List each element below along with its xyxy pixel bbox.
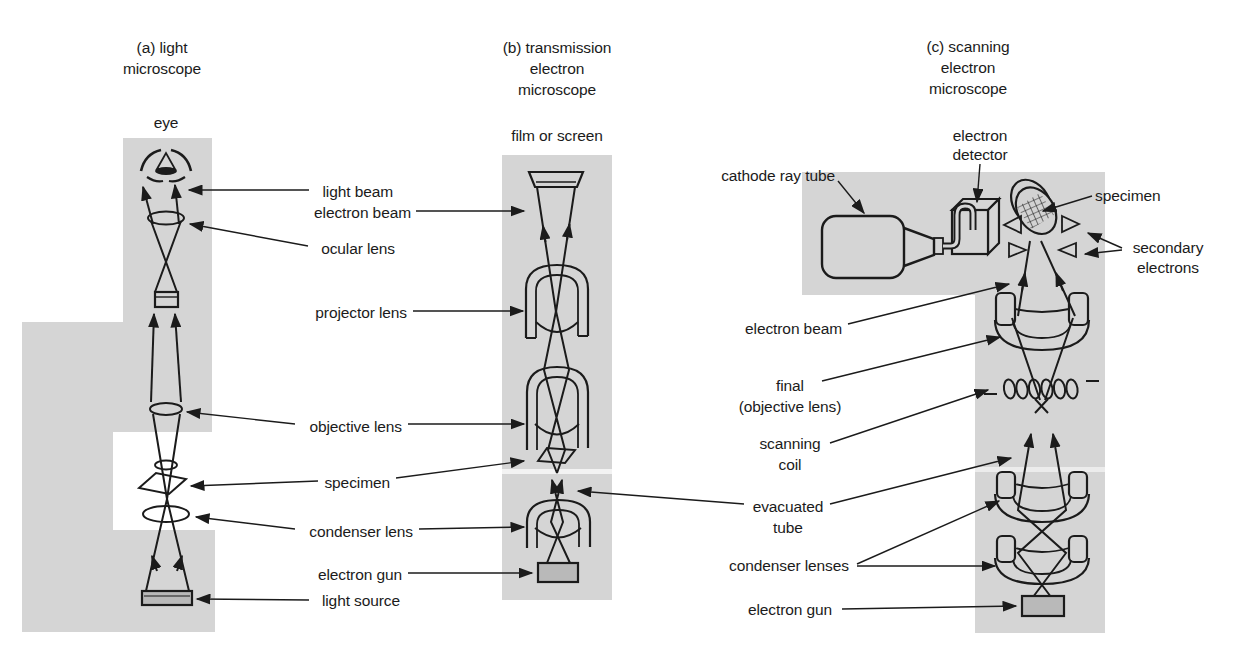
eye-label: eye	[126, 113, 206, 133]
condenser-lenses-label: condenser lenses	[714, 556, 864, 576]
light-source-shape	[142, 591, 192, 605]
specimen-label: specimen	[260, 473, 390, 493]
light-microscope-panel	[22, 138, 215, 632]
sem-electron-gun-label: electron gun	[715, 600, 865, 620]
panel-b-title: (b) transmissionelectronmicroscope	[482, 37, 632, 100]
light-beam-label: light beam	[263, 182, 393, 202]
panel-a-title: (a) lightmicroscope	[87, 37, 237, 79]
tem-electron-gun-shape	[538, 563, 578, 582]
sem-electron-beam-label: electron beam	[712, 319, 842, 339]
sem-electron-gun-shape	[1022, 596, 1064, 616]
cathode-ray-tube-label: cathode ray tube	[705, 166, 835, 186]
objective-lens-label: objective lens	[272, 417, 402, 437]
scanning-coil-label: scanningcoil	[715, 433, 865, 475]
gray-panels	[22, 138, 1105, 633]
film-or-screen-label: film or screen	[482, 126, 632, 146]
electron-beam-label: electron beam	[281, 203, 411, 223]
evacuated-tube-label: evacuatedtube	[713, 496, 863, 538]
secondary-electrons-label: secondaryelectrons	[1098, 238, 1238, 278]
condenser-lens-shape	[143, 506, 189, 522]
electron-gun-label: electron gun	[272, 565, 402, 585]
sem-evacuated-gap	[975, 467, 1105, 472]
microscope-comparison-figure: (a) lightmicroscope (b) transmissionelec…	[0, 0, 1244, 661]
ocular-lens-label: ocular lens	[265, 239, 395, 259]
light-source-label: light source	[270, 591, 400, 611]
panel-c-title: (c) scanningelectronmicroscope	[893, 36, 1043, 99]
electron-detector-label: electrondetector	[920, 126, 1040, 164]
condenser-lens-label: condenser lens	[283, 522, 413, 542]
sem-specimen-label: specimen	[1095, 186, 1205, 206]
condenser-lens-leader-left	[196, 517, 295, 529]
final-objective-lens-label: final(objective lens)	[715, 375, 865, 417]
slide-lens-shape	[155, 461, 177, 470]
projector-lens-label: projector lens	[277, 303, 407, 323]
